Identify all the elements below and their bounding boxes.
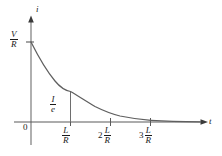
fraction-l-over-r: L R [145, 126, 153, 146]
decay-curve [31, 42, 200, 122]
fraction-l-over-r: L R [104, 126, 112, 146]
rl-decay-figure: i t 0 V R I e L R 2 L R 3 L R [0, 0, 222, 156]
y-axis-label: i [36, 5, 39, 14]
fraction-numerator: I [50, 95, 56, 104]
fraction-numerator: L [104, 126, 112, 135]
fraction-denominator: R [104, 135, 112, 145]
decayed-current-label: I e [50, 95, 56, 115]
origin-label: 0 [23, 123, 28, 132]
fraction-numerator: V [10, 30, 18, 39]
fraction-denominator: R [62, 135, 70, 145]
x-axis-arrowhead [201, 119, 209, 125]
x-tick-label-lr: L R [61, 126, 70, 146]
fraction-i-over-e: I e [50, 95, 56, 115]
y-axis [28, 16, 34, 146]
y-axis-arrowhead [28, 16, 34, 23]
fraction-numerator: L [145, 126, 153, 135]
fraction-numerator: L [62, 126, 70, 135]
x-tick-label-3lr: 3 L R [139, 126, 152, 146]
initial-current-label: V R [10, 30, 18, 50]
x-axis-label: t [209, 117, 212, 126]
fraction-denominator: R [145, 135, 153, 145]
x-tick-label-2lr: 2 L R [98, 126, 111, 146]
fraction-denominator: R [10, 39, 18, 49]
fraction-v-over-r: V R [10, 30, 18, 50]
fraction-l-over-r: L R [62, 126, 70, 146]
plot-canvas [0, 0, 222, 156]
fraction-denominator: e [50, 104, 56, 114]
